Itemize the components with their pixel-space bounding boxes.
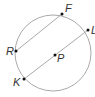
label-p: P xyxy=(57,52,65,64)
label-l: L xyxy=(91,24,95,36)
circle xyxy=(15,15,91,91)
chord-rf xyxy=(16,14,62,51)
circle-diagram: F L R P K xyxy=(0,0,95,97)
label-r: R xyxy=(6,45,14,57)
point-r xyxy=(15,50,18,53)
point-f xyxy=(61,13,64,16)
label-k: K xyxy=(13,76,21,88)
point-k xyxy=(23,78,26,81)
point-l xyxy=(87,29,90,32)
label-f: F xyxy=(65,2,73,14)
